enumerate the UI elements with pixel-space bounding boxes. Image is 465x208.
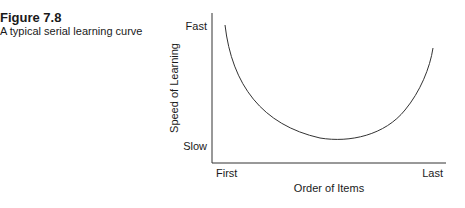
learning-curve: [225, 25, 433, 139]
y-axis-label: Speed of Learning: [168, 43, 180, 133]
x-tick-first: First: [216, 167, 237, 179]
x-axis-label: Order of Items: [294, 182, 365, 194]
y-tick-slow: Slow: [183, 140, 207, 152]
serial-learning-chart: Fast Slow Speed of Learning First Last O…: [0, 0, 465, 208]
x-tick-last: Last: [422, 167, 443, 179]
y-tick-fast: Fast: [186, 20, 207, 32]
